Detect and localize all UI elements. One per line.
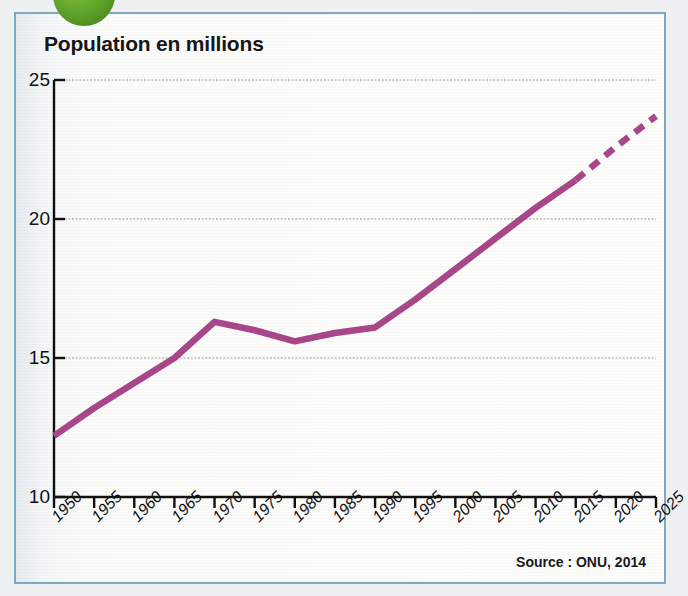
series-line-projection	[576, 116, 656, 180]
axes	[54, 80, 656, 497]
plot-area: 10152025 1950195519601965197019751980198…	[16, 14, 668, 586]
y-tick-label: 20	[16, 208, 50, 230]
axis-ticks	[54, 80, 656, 508]
chart-panel: Population en millions 10152025 19501955…	[14, 12, 666, 584]
series-line	[54, 180, 576, 436]
chart-svg	[16, 14, 668, 586]
y-tick-label: 15	[16, 347, 50, 369]
y-axis-labels: 10152025	[16, 14, 50, 586]
data-series	[54, 116, 656, 436]
y-tick-label: 25	[16, 69, 50, 91]
gridlines	[54, 80, 656, 358]
source-note: Source : ONU, 2014	[516, 554, 646, 570]
y-tick-label: 10	[16, 486, 50, 508]
